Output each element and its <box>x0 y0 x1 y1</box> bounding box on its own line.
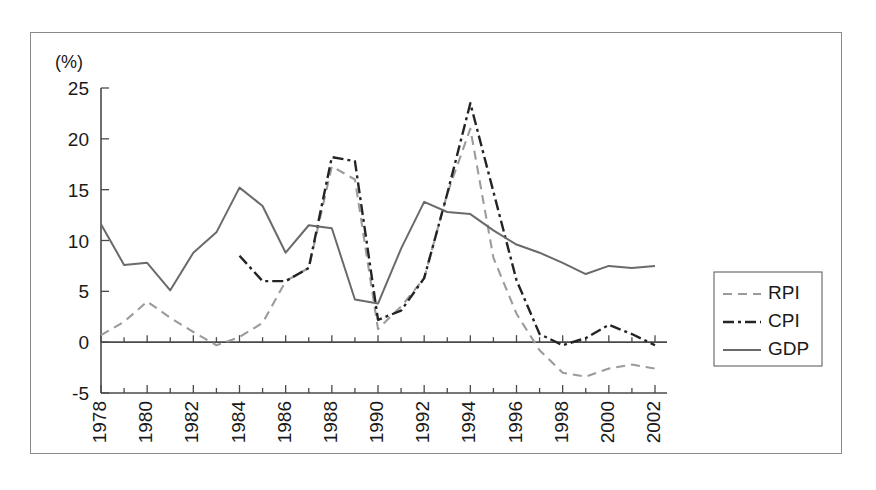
y-axis-tick-label: 15 <box>68 180 89 201</box>
y-axis-tick-label: 0 <box>78 332 89 353</box>
legend-label: GDP <box>768 338 809 359</box>
y-axis-tick-label: 10 <box>68 231 89 252</box>
legend-label: CPI <box>768 310 800 331</box>
x-axis-tick-label: 1996 <box>505 401 526 443</box>
line-chart: (%) -50510152025 19781980198219841986198… <box>0 0 876 490</box>
x-axis-tick-label: 1982 <box>181 401 202 443</box>
x-axis-tick-label: 1980 <box>135 401 156 443</box>
x-axis-tick-label: 2002 <box>643 401 664 443</box>
x-axis: 1978198019821984198619881990199219941996… <box>89 335 667 443</box>
y-axis-tick-label: 20 <box>68 129 89 150</box>
x-axis-tick-label: 1992 <box>412 401 433 443</box>
y-axis-tick-label: -5 <box>72 383 89 404</box>
x-axis-tick-label: 1988 <box>320 401 341 443</box>
x-axis-tick-label: 2000 <box>597 401 618 443</box>
x-axis-tick-label: 1994 <box>458 401 479 444</box>
legend-label: RPI <box>768 282 800 303</box>
y-axis: -50510152025 <box>68 78 109 404</box>
x-axis-tick-label: 1986 <box>274 401 295 443</box>
series-line-gdp <box>101 188 655 304</box>
y-axis-tick-label: 25 <box>68 78 89 99</box>
x-axis-tick-label: 1984 <box>228 401 249 444</box>
series-line-cpi <box>240 103 656 345</box>
x-axis-tick-label: 1998 <box>551 401 572 443</box>
y-axis-tick-label: 5 <box>78 281 89 302</box>
y-axis-unit-label: (%) <box>55 52 83 72</box>
x-axis-tick-label: 1978 <box>89 401 110 443</box>
chart-legend[interactable]: RPICPIGDP <box>714 272 822 366</box>
x-axis-tick-label: 1990 <box>366 401 387 443</box>
